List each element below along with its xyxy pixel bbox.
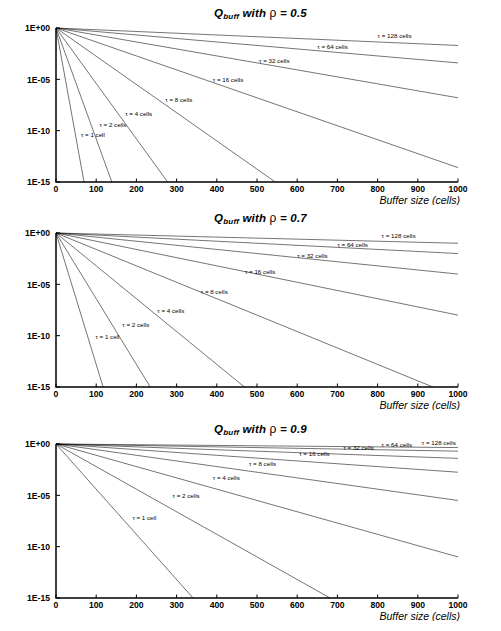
y-tick-label: 1E-05 [27,75,50,85]
series-label: τ = 128 cells [422,439,456,446]
series-label: τ = 2 cells [122,321,149,328]
x-tick-label: 900 [411,184,426,194]
series-label: τ = 32 cells [343,444,373,451]
series-label: τ = 8 cells [249,460,276,467]
series-label: τ = 1 cell [95,333,119,340]
series-label: τ = 2 cells [173,492,200,499]
series-label: τ = 128 cells [378,32,412,39]
series-label: τ = 64 cells [337,241,367,248]
y-tick-label: 1E-05 [27,491,50,501]
series-line [56,233,244,387]
series-label: τ = 4 cells [157,307,184,314]
x-tick-label: 0 [54,389,59,399]
axis-lines [56,28,458,182]
chart-panel-0: Qbuff with ρ = 0.5 010020030040050060070… [0,0,501,205]
x-tick-label: 900 [411,389,426,399]
series-label: τ = 8 cells [201,288,228,295]
x-axis-title: Buffer size (cells) [379,194,460,205]
x-tick-label: 700 [330,389,345,399]
x-tick-label: 800 [370,184,385,194]
plot-area-2: 010020030040050060070080090010001E+001E-… [0,416,501,621]
series-line [56,28,275,182]
y-tick-label: 1E+00 [25,439,50,449]
x-tick-label: 400 [210,389,225,399]
series-label: τ = 32 cells [259,57,289,64]
x-tick-label: 600 [290,389,305,399]
series-line [56,28,458,168]
series-label: τ = 8 cells [165,96,192,103]
y-tick-label: 1E+00 [25,23,50,33]
y-tick-label: 1E+00 [25,228,50,238]
series-line [56,233,150,387]
x-tick-label: 700 [330,184,345,194]
series-label: τ = 2 cells [99,121,126,128]
series-label: τ = 16 cells [245,268,275,275]
series-label: τ = 1 cell [81,131,105,138]
x-tick-label: 100 [89,389,104,399]
y-tick-label: 1E-10 [27,542,50,552]
axis-lines [56,233,458,387]
x-tick-label: 300 [169,184,184,194]
y-tick-label: 1E-15 [27,177,50,187]
x-tick-label: 100 [89,184,104,194]
series-label: τ = 1 cell [132,514,156,521]
x-tick-label: 200 [129,184,144,194]
x-tick-label: 500 [250,389,265,399]
x-tick-label: 600 [290,184,305,194]
x-tick-label: 800 [370,600,385,610]
series-label: τ = 4 cells [213,474,240,481]
x-tick-label: 400 [210,600,225,610]
series-label: τ = 128 cells [382,232,416,239]
plot-area-1: 010020030040050060070080090010001E+001E-… [0,205,501,410]
series-label: τ = 32 cells [297,252,327,259]
series-line [56,444,458,472]
series-line [56,233,103,387]
series-label: τ = 64 cells [317,43,347,50]
x-tick-label: 300 [169,389,184,399]
chart-panel-2: Qbuff with ρ = 0.9 010020030040050060070… [0,416,501,621]
x-tick-label: 1000 [448,184,467,194]
chart-panel-1: Qbuff with ρ = 0.7 010020030040050060070… [0,205,501,410]
x-tick-label: 400 [210,184,225,194]
series-line [56,28,168,182]
x-tick-label: 1000 [448,600,467,610]
x-tick-label: 200 [129,600,144,610]
y-tick-label: 1E-10 [27,126,50,136]
x-axis-title: Buffer size (cells) [379,610,460,621]
axis-lines [56,444,458,598]
series-label: τ = 16 cells [213,76,243,83]
x-tick-label: 600 [290,600,305,610]
y-tick-label: 1E-15 [27,382,50,392]
series-line [56,444,458,500]
x-tick-label: 300 [169,600,184,610]
series-line [56,444,193,598]
series-line [56,233,433,387]
x-tick-label: 900 [411,600,426,610]
y-tick-label: 1E-10 [27,331,50,341]
x-tick-label: 500 [250,184,265,194]
series-line [56,444,330,598]
x-tick-label: 700 [330,600,345,610]
x-tick-label: 100 [89,600,104,610]
x-axis-title: Buffer size (cells) [379,399,460,410]
x-tick-label: 800 [370,389,385,399]
y-tick-label: 1E-15 [27,593,50,603]
y-tick-label: 1E-05 [27,280,50,290]
series-label: τ = 4 cells [125,110,152,117]
plot-area-0: 010020030040050060070080090010001E+001E-… [0,0,501,205]
x-tick-label: 1000 [448,389,467,399]
series-line [56,28,112,182]
x-tick-label: 0 [54,600,59,610]
x-tick-label: 0 [54,184,59,194]
x-tick-label: 500 [250,600,265,610]
figure-root: Qbuff with ρ = 0.5 010020030040050060070… [0,0,501,631]
x-tick-label: 200 [129,389,144,399]
series-line [56,28,84,182]
